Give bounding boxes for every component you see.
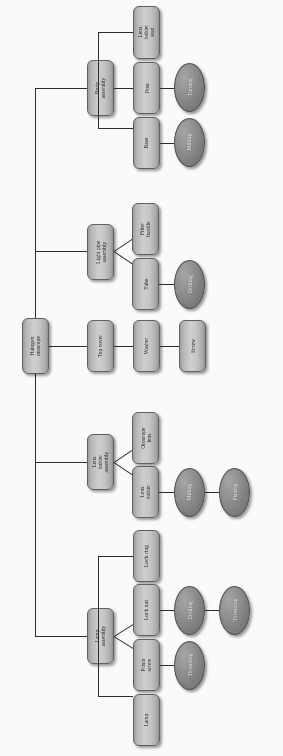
body-bracket-vline — [98, 32, 99, 128]
locknut-to-drilling — [160, 610, 174, 611]
node-label: Planing — [231, 484, 237, 501]
node-label: Lens holder assembly — [91, 449, 109, 474]
node-label: Turning — [186, 79, 192, 97]
node-prism-screw[interactable]: Prism screw — [133, 639, 160, 691]
node-threading-lock-nut[interactable]: Threading — [219, 586, 250, 635]
node-label: Drilling — [186, 602, 192, 620]
node-lamp[interactable]: Lamp — [133, 694, 160, 746]
node-halogen-otoscope[interactable]: Halogen otoscope — [22, 318, 49, 374]
node-fiber-bundle[interactable]: Fiber bundle — [132, 203, 159, 255]
node-label: Tube — [142, 278, 148, 289]
node-label: Threading — [231, 599, 237, 622]
node-lock-nut[interactable]: Lock nut — [133, 584, 160, 636]
node-drilling-lock-nut[interactable]: Drilling — [174, 586, 205, 635]
node-label: Lock ring — [143, 545, 149, 567]
node-base[interactable]: Base — [133, 117, 160, 169]
branch-line-topcover — [49, 346, 87, 347]
node-screw[interactable]: Screw — [179, 320, 206, 372]
node-label: Lens holder — [139, 480, 151, 505]
node-label: Screw — [189, 339, 195, 353]
branch-line-body — [35, 88, 87, 89]
topcover-to-washer — [114, 346, 133, 347]
node-label: Lock nut — [143, 600, 149, 620]
node-milling-base[interactable]: Milling — [174, 118, 205, 167]
node-label: Fiber bundle — [139, 217, 151, 242]
milling-to-planing — [205, 492, 219, 493]
node-lens-holder-stud[interactable]: Lens holder stud — [133, 6, 160, 59]
node-label: Lens holder stud — [137, 20, 155, 45]
node-label: Top cover — [97, 335, 103, 358]
node-lens-holder-assembly[interactable]: Lens holder assembly — [87, 434, 114, 490]
node-label: Threading — [186, 654, 192, 677]
node-label: Body assembly — [94, 76, 106, 101]
node-washer[interactable]: Washer — [133, 320, 160, 372]
node-label: Lamp — [143, 714, 149, 727]
body-to-stud — [98, 32, 133, 33]
branch-line-lensholder — [35, 462, 87, 463]
lamp-bracket-vline — [98, 556, 99, 696]
post-to-turning — [160, 88, 174, 89]
node-post[interactable]: Post — [133, 62, 160, 114]
node-drilling-tube[interactable]: Drilling — [174, 260, 205, 309]
assembly-tree-figure: Halogen otoscope Body assembly Lens hold… — [0, 0, 283, 756]
node-label: Otoscope lens — [139, 427, 151, 448]
node-lens-holder[interactable]: Lens holder — [132, 466, 159, 518]
branch-line-lamp — [35, 636, 87, 637]
node-tube[interactable]: Tube — [132, 258, 159, 310]
node-light-pipe-assembly[interactable]: Light pipe assembly — [87, 224, 114, 280]
lampasm-to-lock-ring — [98, 556, 133, 557]
tube-to-drilling — [159, 284, 174, 285]
node-top-cover[interactable]: Top cover — [87, 320, 114, 372]
node-label: Milling — [186, 134, 192, 151]
node-label: Post — [143, 83, 149, 93]
lensholder-to-milling — [159, 492, 174, 493]
node-label: Light pipe assembly — [94, 240, 106, 263]
node-label: Base — [143, 138, 149, 149]
drilling-to-threading — [205, 610, 219, 611]
node-planing-lens-holder[interactable]: Planing — [219, 468, 250, 517]
node-body-assembly[interactable]: Body assembly — [87, 60, 114, 116]
body-to-post — [114, 88, 133, 89]
washer-to-screw — [160, 346, 179, 347]
base-to-milling — [160, 143, 174, 144]
branch-line-lightpipe — [35, 251, 87, 252]
lampasm-to-prism-screw — [113, 636, 135, 650]
node-label: Drilling — [186, 276, 192, 294]
body-to-base — [98, 128, 133, 129]
node-otoscope-lens[interactable]: Otoscope lens — [132, 412, 159, 464]
node-label: Lamp assembly — [94, 626, 106, 647]
node-threading-prism-screw[interactable]: Threading — [174, 641, 205, 690]
node-label: Washer — [143, 338, 149, 355]
lampasm-to-lamp — [98, 696, 133, 697]
node-label: Milling — [186, 484, 192, 501]
node-lock-ring[interactable]: Lock ring — [133, 530, 160, 582]
node-turning[interactable]: Turning — [174, 63, 205, 112]
node-lamp-assembly[interactable]: Lamp assembly — [87, 608, 114, 664]
node-label: Prism screw — [140, 653, 152, 678]
node-label: Halogen otoscope — [29, 334, 41, 359]
node-milling-lens-holder[interactable]: Milling — [174, 468, 205, 517]
prismscrew-to-threading — [160, 665, 174, 666]
